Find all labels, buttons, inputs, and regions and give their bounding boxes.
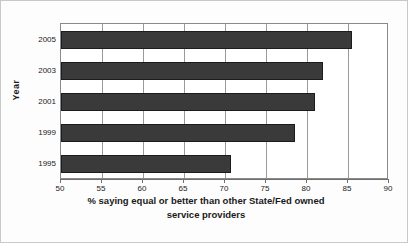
y-axis-title-text: Year xyxy=(11,79,21,100)
x-tick-label: 55 xyxy=(97,184,106,193)
x-tick-mark xyxy=(183,179,184,183)
y-axis-tick-labels: 20052003200119991995 xyxy=(25,23,59,179)
bar-chart-figure: Year 20052003200119991995 50556065707580… xyxy=(0,0,408,243)
x-tick-mark xyxy=(388,179,389,183)
x-tick-mark xyxy=(60,179,61,183)
x-tick-mark xyxy=(101,179,102,183)
x-tick-label: 60 xyxy=(138,184,147,193)
x-tick-mark xyxy=(224,179,225,183)
x-tick-mark xyxy=(347,179,348,183)
bar xyxy=(61,155,231,173)
bar xyxy=(61,31,352,49)
y-tick-label: 2003 xyxy=(38,65,56,74)
x-tick-label: 90 xyxy=(384,184,393,193)
x-tick-label: 80 xyxy=(302,184,311,193)
x-tick-mark xyxy=(265,179,266,183)
x-tick-mark xyxy=(306,179,307,183)
y-tick-label: 2005 xyxy=(38,34,56,43)
x-tick-label: 85 xyxy=(343,184,352,193)
bar xyxy=(61,124,295,142)
x-tick-mark xyxy=(142,179,143,183)
x-tick-label: 75 xyxy=(261,184,270,193)
x-axis-title: % saying equal or better than other Stat… xyxy=(31,194,381,222)
bar xyxy=(61,93,315,111)
plot-area xyxy=(60,23,388,179)
y-axis-title: Year xyxy=(5,1,27,179)
x-axis-title-line: service providers xyxy=(31,208,381,222)
x-axis-title-line: % saying equal or better than other Stat… xyxy=(31,194,381,208)
y-tick-label: 1999 xyxy=(38,128,56,137)
y-tick-label: 2001 xyxy=(38,97,56,106)
x-tick-label: 65 xyxy=(179,184,188,193)
bar xyxy=(61,62,323,80)
y-tick-label: 1995 xyxy=(38,159,56,168)
x-tick-label: 70 xyxy=(220,184,229,193)
x-tick-label: 50 xyxy=(56,184,65,193)
